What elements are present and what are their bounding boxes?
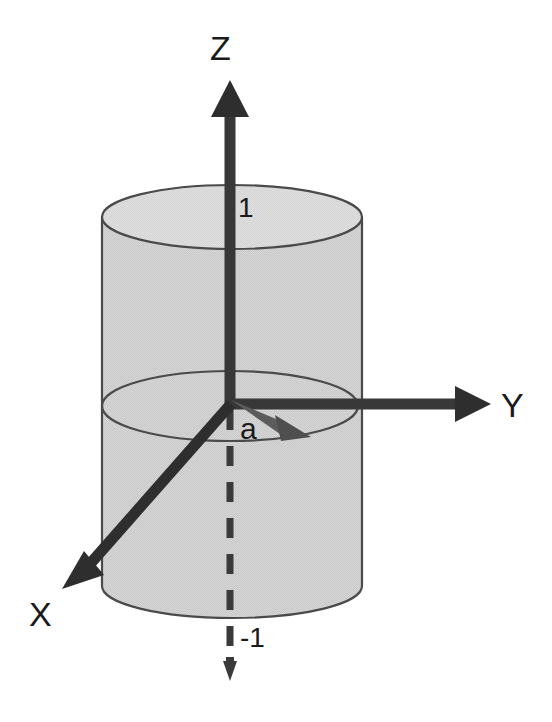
arrow-up-icon (211, 80, 249, 117)
arrow-down-stem (226, 657, 234, 667)
vector-label-a: a (240, 414, 257, 444)
axis-label-y: Y (501, 388, 524, 422)
cylinder-axes-diagram (0, 0, 552, 722)
axis-label-x: X (29, 597, 52, 631)
tick-label-z-top: 1 (238, 194, 254, 222)
figure-canvas: Z Y X 1 -1 a (0, 0, 552, 722)
arrow-right-icon (455, 386, 491, 422)
tick-label-z-bottom: -1 (240, 624, 265, 652)
axis-label-z: Z (210, 31, 231, 65)
